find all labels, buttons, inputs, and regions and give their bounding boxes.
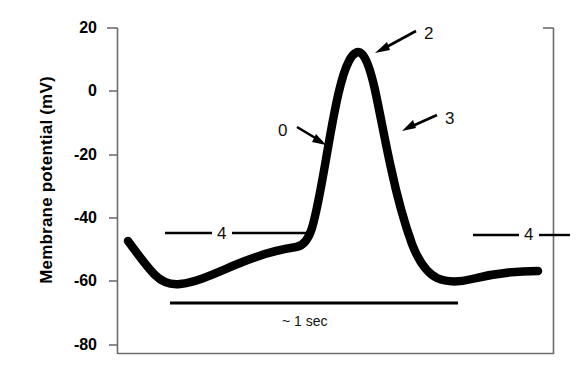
y-axis-title: Membrane potential (mV): [37, 15, 57, 345]
y-tick-label-minus-60: -60: [45, 273, 97, 289]
phase-label-2: 2: [424, 25, 433, 42]
y-tick-label-20: 20: [45, 20, 97, 36]
arrow-left-icon: [375, 31, 416, 53]
y-tick-label-minus-20: -20: [45, 147, 97, 163]
phase-label-0: 0: [278, 122, 287, 139]
phase-label-4-right: 4: [524, 226, 533, 243]
y-tick-label-0: 0: [45, 83, 97, 99]
arrow-left-icon-phase3: [402, 115, 437, 131]
phase-label-4-left: 4: [217, 225, 226, 242]
y-tick-label-minus-40: -40: [45, 210, 97, 226]
y-tick-label-minus-80: -80: [45, 337, 97, 353]
axis-lines: [118, 28, 555, 354]
phase-label-3: 3: [445, 110, 454, 127]
y-axis-ticks: [107, 28, 118, 345]
arrow-right-icon: [297, 127, 326, 145]
scale-bar-label: ~ 1 sec: [282, 314, 328, 328]
figure-root: Membrane potential (mV) 20 0 -20 -40 -60…: [0, 0, 585, 385]
action-potential-curve: [128, 52, 538, 284]
